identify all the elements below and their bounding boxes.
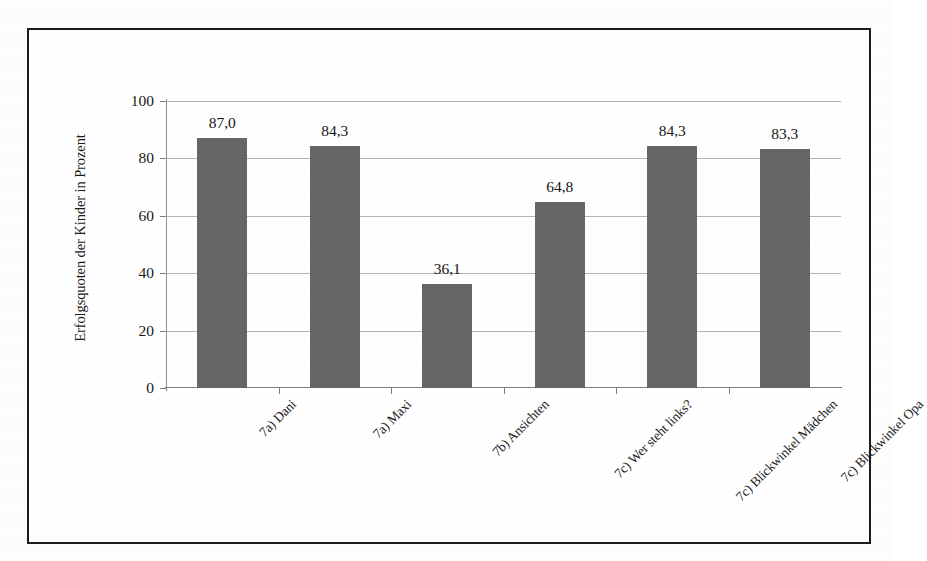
y-tick-mark-0 [160, 388, 166, 389]
gridline-40 [166, 273, 841, 274]
chart-frame: Erfolgsquoten der Kinder in Prozent 0 20… [27, 28, 871, 544]
y-tick-label-40: 40 [102, 265, 154, 281]
x-axis-category-labels: 7a) Dani7a) Maxi7b) Ansichten7c) Wer ste… [166, 396, 841, 546]
bar [760, 149, 810, 388]
gridline-80 [166, 158, 841, 159]
bar-value-label: 87,0 [182, 115, 262, 131]
x-axis-category-label: 7c) Blickwinkel Mädchen [732, 396, 841, 505]
y-tick-mark-40 [160, 273, 166, 274]
y-tick-label-60: 60 [102, 208, 154, 224]
bar-value-label: 83,3 [745, 126, 825, 142]
x-tick-mark [729, 388, 730, 394]
bar [310, 146, 360, 388]
gridline-20 [166, 331, 841, 332]
gridline-60 [166, 216, 841, 217]
plot-area: 87,084,336,164,884,383,3 [166, 101, 841, 388]
y-tick-label-80: 80 [102, 151, 154, 167]
y-tick-label-0: 0 [102, 380, 154, 396]
x-axis-category-label: 7a) Dani [256, 396, 301, 441]
x-tick-mark [279, 388, 280, 394]
x-axis-category-label: 7c) Wer steht links? [610, 396, 696, 482]
bar [647, 146, 697, 388]
bar-value-label: 64,8 [520, 179, 600, 195]
x-tick-mark [616, 388, 617, 394]
y-tick-label-20: 20 [102, 323, 154, 339]
y-tick-label-100: 100 [102, 93, 154, 109]
y-axis-line [166, 99, 167, 391]
y-tick-mark-20 [160, 331, 166, 332]
x-tick-mark [391, 388, 392, 394]
bar [535, 202, 585, 388]
y-tick-mark-60 [160, 216, 166, 217]
gridline-100 [166, 101, 841, 102]
bar [197, 138, 247, 388]
x-axis-category-label: 7c) Blickwinkel Opa [837, 396, 927, 486]
x-axis-category-label: 7a) Maxi [369, 396, 416, 443]
bar-value-label: 84,3 [295, 123, 375, 139]
bar [422, 284, 472, 388]
y-tick-mark-100 [160, 101, 166, 102]
x-axis-category-label: 7b) Ansichten [489, 396, 554, 461]
bar-value-label: 36,1 [407, 261, 487, 277]
y-tick-mark-80 [160, 158, 166, 159]
bar-value-label: 84,3 [632, 123, 712, 139]
y-axis-title: Erfolgsquoten der Kinder in Prozent [72, 88, 94, 388]
x-tick-mark [504, 388, 505, 394]
